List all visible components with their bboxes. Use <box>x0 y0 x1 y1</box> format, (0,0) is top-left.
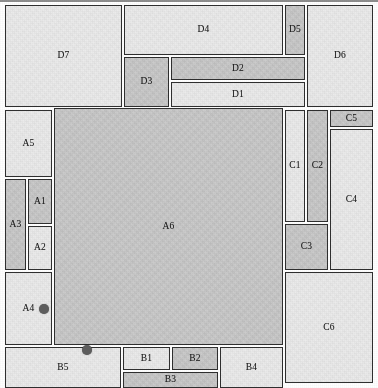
rect-label: D7 <box>57 51 69 61</box>
rect-label: B2 <box>189 354 201 364</box>
rect-d6[interactable]: D6 <box>307 5 373 107</box>
rect-label: A1 <box>34 197 46 207</box>
rect-label: D3 <box>140 77 152 87</box>
rect-label: C1 <box>289 161 301 171</box>
top-rule <box>0 0 378 2</box>
rect-label: B3 <box>165 375 177 385</box>
rect-c6[interactable]: C6 <box>285 272 373 383</box>
rect-d2[interactable]: D2 <box>171 57 305 80</box>
rect-label: A4 <box>22 304 34 314</box>
rect-d3[interactable]: D3 <box>124 57 169 107</box>
marker-a4-dot-icon <box>39 304 49 314</box>
rect-label: A5 <box>22 139 34 149</box>
rect-b1[interactable]: B1 <box>123 347 170 370</box>
rect-b3[interactable]: B3 <box>123 372 218 388</box>
rect-label: C5 <box>346 114 358 124</box>
rect-a3[interactable]: A3 <box>5 179 26 270</box>
rect-label: C3 <box>301 242 313 252</box>
rect-label: D2 <box>232 64 244 74</box>
rect-c3[interactable]: C3 <box>285 224 328 270</box>
rect-label: D1 <box>232 90 244 100</box>
rect-label: C4 <box>346 195 358 205</box>
marker-b5-dot-icon <box>82 345 92 355</box>
rect-c4[interactable]: C4 <box>330 129 373 270</box>
rect-label: D6 <box>334 51 346 61</box>
rect-label: B1 <box>141 354 153 364</box>
rect-d5[interactable]: D5 <box>285 5 305 55</box>
rect-d4[interactable]: D4 <box>124 5 283 55</box>
rect-d7[interactable]: D7 <box>5 5 122 107</box>
rect-c1[interactable]: C1 <box>285 110 305 222</box>
rect-d1[interactable]: D1 <box>171 82 305 107</box>
rect-a6[interactable]: A6 <box>54 108 283 345</box>
rect-a2[interactable]: A2 <box>28 226 52 270</box>
packing-diagram: D7D4D5D6D3D2D1A5A3A1A2A4A6C1C2C5C4C3C6B5… <box>0 0 378 388</box>
rect-label: B4 <box>246 363 258 373</box>
rect-label: D5 <box>289 25 301 35</box>
rect-label: C6 <box>323 323 335 333</box>
rect-label: D4 <box>197 25 209 35</box>
rect-c5[interactable]: C5 <box>330 110 373 127</box>
rect-label: A6 <box>162 222 174 232</box>
rect-label: C2 <box>312 161 324 171</box>
rect-label: B5 <box>57 363 69 373</box>
rect-c2[interactable]: C2 <box>307 110 328 222</box>
rect-label: A2 <box>34 243 46 253</box>
rect-b4[interactable]: B4 <box>220 347 283 388</box>
rect-a1[interactable]: A1 <box>28 179 52 224</box>
rect-b5[interactable]: B5 <box>5 347 121 388</box>
rect-b2[interactable]: B2 <box>172 347 218 370</box>
rect-label: A3 <box>9 220 21 230</box>
rect-a5[interactable]: A5 <box>5 110 52 177</box>
